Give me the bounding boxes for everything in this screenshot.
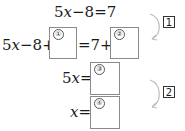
coefficient: 5: [54, 3, 64, 21]
blank-number-label: ②: [114, 29, 125, 40]
equation-line-2-left: 5x−8+: [2, 36, 55, 54]
equation-line-3: 5x=: [62, 69, 93, 87]
answer-box-4[interactable]: ④: [90, 96, 120, 129]
coefficient: 5: [62, 69, 72, 87]
variable: x: [72, 69, 80, 87]
equation-line-4: x=: [70, 103, 91, 121]
blank-number-label: ①: [53, 29, 64, 40]
answer-box-3[interactable]: ③: [90, 62, 120, 95]
variable: x: [64, 3, 72, 21]
step-label-1: 1: [163, 16, 175, 28]
coefficient: 5: [2, 36, 12, 54]
step-label-2: 2: [163, 86, 175, 98]
blank-number-label: ④: [94, 98, 105, 109]
blank-number-label: ③: [94, 64, 105, 75]
equation-rest: −8=7: [72, 3, 116, 21]
equation-line-1: 5x−8=7: [54, 3, 116, 21]
equation-rest: =7+: [78, 36, 113, 54]
equation-line-2-middle: =7+: [78, 36, 113, 54]
variable: x: [12, 36, 20, 54]
answer-box-1[interactable]: ①: [49, 27, 77, 59]
answer-box-2[interactable]: ②: [110, 27, 139, 59]
